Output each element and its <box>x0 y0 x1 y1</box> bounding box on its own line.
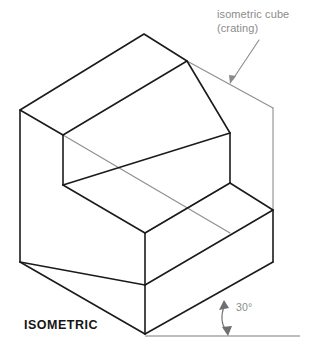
drawing-canvas <box>0 0 312 361</box>
angle-arc-path <box>222 306 226 330</box>
callout-leader-line <box>233 40 259 79</box>
crate-interior-diagonal <box>63 135 230 233</box>
angle-arrowhead-lower <box>222 326 232 336</box>
angle-arrowhead-upper <box>219 300 229 310</box>
middle-step-tread-right <box>230 183 273 210</box>
upper-step-back-edge <box>187 61 230 133</box>
crating-cube-edges <box>63 61 273 233</box>
callout-leader <box>229 40 259 84</box>
upper-step-tread-right <box>63 133 230 185</box>
crating-callout-label: isometric cube (crating) <box>217 7 289 35</box>
angle-label: 30° <box>236 300 252 314</box>
callout-leader-arrowhead <box>229 75 236 84</box>
upper-step-top-face <box>20 34 187 135</box>
view-title: ISOMETRIC <box>24 318 98 332</box>
angle-annotation <box>219 300 232 336</box>
bottom-right-diagonal-edge <box>145 262 273 334</box>
crating-callout-line2: (crating) <box>217 21 289 35</box>
upper-step-tread-left <box>63 185 145 233</box>
crating-callout-line1: isometric cube <box>217 7 289 21</box>
crate-top-right-diagonal <box>187 61 273 108</box>
isometric-drawing-figure: isometric cube (crating) 30° ISOMETRIC <box>0 0 312 361</box>
